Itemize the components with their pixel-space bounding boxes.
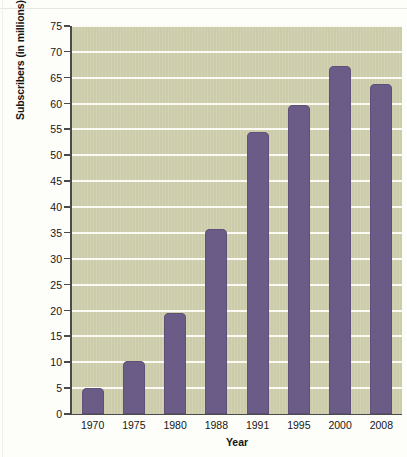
- gridline: [72, 206, 402, 208]
- bar-1975: [123, 361, 145, 414]
- y-axis-tick: [64, 413, 70, 415]
- bar-1980: [164, 313, 186, 414]
- x-axis-tick-label: 1975: [114, 419, 154, 431]
- gridline: [72, 335, 402, 337]
- y-axis-tick: [64, 51, 70, 53]
- bar-1970: [82, 388, 104, 414]
- y-axis-tick-label: 70: [34, 46, 62, 58]
- gridline: [72, 232, 402, 234]
- y-axis-tick: [64, 310, 70, 312]
- x-axis-tick-label: 1970: [73, 419, 113, 431]
- y-axis-title: Subscribers (in millions): [14, 0, 28, 150]
- y-axis-tick-label: 20: [34, 305, 62, 317]
- gridline: [72, 25, 402, 27]
- y-axis-tick-label: 30: [34, 253, 62, 265]
- gridline: [72, 51, 402, 53]
- y-axis-tick: [64, 25, 70, 27]
- x-axis-tick-label: 1988: [196, 419, 236, 431]
- y-axis-tick-labels: 051015202530354045505560657075: [30, 26, 62, 414]
- y-axis-tick: [64, 206, 70, 208]
- y-axis-tick: [64, 128, 70, 130]
- y-axis-tick-label: 0: [34, 408, 62, 420]
- y-axis-tick: [64, 77, 70, 79]
- y-axis-tick-label: 35: [34, 227, 62, 239]
- x-axis-tick-label: 1991: [238, 419, 278, 431]
- bar-1991: [247, 132, 269, 414]
- y-axis-tick-label: 75: [34, 20, 62, 32]
- y-axis-tick: [64, 180, 70, 182]
- y-axis-tick-label: 50: [34, 149, 62, 161]
- x-axis-tick-label: 2000: [320, 419, 360, 431]
- y-axis-tick: [64, 154, 70, 156]
- y-axis-tick-label: 10: [34, 356, 62, 368]
- y-axis-tick-label: 55: [34, 123, 62, 135]
- y-axis-tick: [64, 335, 70, 337]
- plot-area: [72, 26, 402, 414]
- scan-edge-top-divider: [0, 8, 407, 9]
- gridline: [72, 77, 402, 79]
- gridline: [72, 103, 402, 105]
- y-axis-tick-label: 45: [34, 175, 62, 187]
- x-axis-title: Year: [72, 436, 402, 448]
- gridline: [72, 387, 402, 389]
- y-axis-tick: [64, 258, 70, 260]
- y-axis-tick: [64, 103, 70, 105]
- bar-1988: [205, 229, 227, 414]
- bar-chart-figure: Subscribers (in millions) 05101520253035…: [0, 0, 407, 457]
- y-axis-tick: [64, 387, 70, 389]
- x-axis-tick-labels: 19701975198019881991199520002008: [72, 419, 402, 435]
- gridline: [72, 128, 402, 130]
- scan-edge-left-divider: [2, 0, 3, 457]
- gridline: [72, 258, 402, 260]
- y-axis-tick-label: 5: [34, 382, 62, 394]
- y-axis-tick-label: 15: [34, 330, 62, 342]
- y-axis-tick-label: 60: [34, 98, 62, 110]
- gridline: [72, 310, 402, 312]
- y-axis-tick-label: 40: [34, 201, 62, 213]
- bar-2008: [370, 84, 392, 414]
- x-axis-tick-label: 1980: [155, 419, 195, 431]
- y-axis-tick: [64, 232, 70, 234]
- gridline: [72, 361, 402, 363]
- bar-2000: [329, 66, 351, 414]
- gridline: [72, 180, 402, 182]
- y-axis-tick: [64, 284, 70, 286]
- gridline: [72, 154, 402, 156]
- y-axis-tick: [64, 361, 70, 363]
- x-axis-tick-label: 2008: [361, 419, 401, 431]
- y-axis-tick-label: 65: [34, 72, 62, 84]
- x-axis-tick-label: 1995: [279, 419, 319, 431]
- bar-1995: [288, 105, 310, 414]
- y-axis-tick-label: 25: [34, 279, 62, 291]
- gridline: [72, 284, 402, 286]
